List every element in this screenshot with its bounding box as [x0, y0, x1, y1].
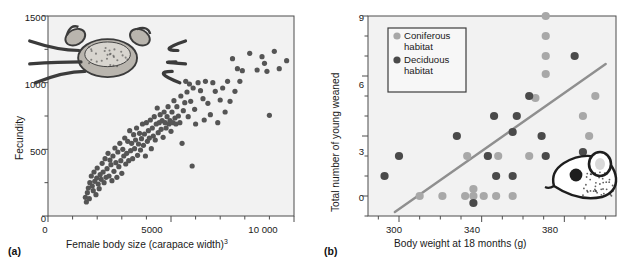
data-point [232, 89, 237, 94]
data-point [96, 181, 101, 186]
panel-a-plot [0, 0, 316, 266]
data-point [101, 180, 106, 185]
data-point [93, 192, 98, 197]
data-point [240, 68, 245, 73]
data-point [579, 112, 587, 120]
data-point [130, 156, 135, 161]
data-point [272, 49, 277, 54]
data-point [525, 152, 533, 160]
data-point [438, 192, 446, 200]
data-point [215, 120, 220, 125]
data-point [492, 192, 500, 200]
data-point [262, 61, 267, 66]
figure-container: (a) Fecundity Female body size (carapace… [0, 0, 633, 266]
data-point [119, 171, 124, 176]
data-point [148, 117, 153, 122]
data-point [218, 97, 223, 102]
data-point [174, 104, 179, 109]
data-point [223, 109, 228, 114]
data-point [255, 67, 260, 72]
data-point [138, 147, 143, 152]
data-point [585, 132, 593, 140]
data-point [198, 88, 203, 93]
data-point [182, 100, 187, 105]
data-point [191, 85, 196, 90]
data-point [115, 149, 120, 154]
vole-eye [570, 169, 583, 182]
data-point [114, 175, 119, 180]
data-point [205, 101, 210, 106]
legend-entry-coniferous-label: Coniferous habitat [404, 30, 450, 53]
data-point [225, 79, 230, 84]
data-point [152, 114, 157, 119]
data-point [142, 131, 147, 136]
legend-swatch-deciduous [393, 56, 400, 63]
data-point [267, 113, 272, 118]
data-point [277, 66, 282, 71]
data-point [195, 80, 200, 85]
data-point [105, 151, 110, 156]
data-point [210, 80, 215, 85]
panel-b-plot [316, 0, 633, 266]
data-point [139, 136, 144, 141]
data-point [165, 104, 170, 109]
data-point [461, 192, 469, 200]
data-point [235, 66, 240, 71]
data-point [453, 132, 461, 140]
data-point [118, 158, 123, 163]
data-point [150, 125, 155, 130]
data-point [178, 93, 183, 98]
data-point [184, 89, 189, 94]
data-point [101, 169, 106, 174]
data-point [395, 152, 403, 160]
data-point [513, 112, 521, 120]
data-point [117, 141, 122, 146]
data-point [97, 186, 102, 191]
data-point [179, 141, 184, 146]
data-point [469, 199, 477, 207]
data-point [469, 192, 477, 200]
data-point [200, 96, 205, 101]
data-point [463, 152, 471, 160]
data-point [259, 54, 264, 59]
data-point [202, 117, 207, 122]
panel-a: (a) Fecundity Female body size (carapace… [0, 0, 316, 266]
data-point [100, 161, 105, 166]
data-point [186, 114, 191, 119]
data-point [284, 58, 289, 63]
data-point [509, 128, 517, 136]
data-point [416, 192, 424, 200]
data-point [492, 172, 500, 180]
data-point [129, 141, 134, 146]
data-point [177, 120, 182, 125]
data-point [134, 125, 139, 130]
data-point [149, 146, 154, 151]
panel-b: (b) Total number of young weaned Body we… [316, 0, 633, 266]
data-point [171, 98, 176, 103]
data-point [571, 52, 579, 60]
data-point [162, 109, 167, 114]
data-point [193, 121, 198, 126]
data-point [380, 172, 388, 180]
data-point [591, 92, 599, 100]
data-point [132, 146, 137, 151]
data-point [161, 135, 166, 140]
data-point [181, 108, 186, 113]
data-point [227, 99, 232, 104]
data-point [220, 85, 225, 90]
data-point [90, 183, 95, 188]
data-point [108, 162, 113, 167]
data-point [106, 173, 111, 178]
data-point [542, 52, 550, 60]
data-point [484, 152, 492, 160]
data-point [190, 163, 195, 168]
data-point [131, 132, 136, 137]
data-point [187, 81, 192, 86]
data-point [136, 141, 141, 146]
data-point [120, 147, 125, 152]
data-point [509, 192, 517, 200]
data-point [203, 79, 208, 84]
data-point [127, 128, 132, 133]
data-point [85, 190, 90, 195]
data-point [168, 129, 173, 134]
